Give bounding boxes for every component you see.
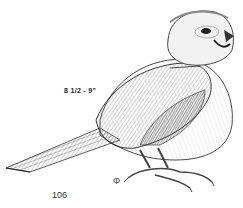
- book-page: 8 1/2 - 9" Φ 106: [0, 0, 243, 208]
- page-number: 106: [52, 190, 67, 200]
- size-label: 8 1/2 - 9": [64, 87, 96, 94]
- artist-signature: Φ: [113, 176, 120, 186]
- head: [168, 11, 234, 65]
- eye: [201, 28, 211, 34]
- bird-illustration: [0, 0, 243, 208]
